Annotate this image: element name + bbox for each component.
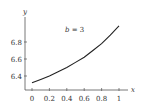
y-ticks: 6.4 6.6 6.8: [11, 39, 27, 81]
x-tick-label: 0.2: [44, 95, 55, 103]
y-tick-label: 6.6: [11, 56, 23, 64]
chart: y x 6.4 6.6 6.8 0 0.2 0.4 0.6 0.8 1 b = …: [0, 0, 142, 108]
y-axis-label: y: [22, 8, 28, 16]
x-tick-label: 1: [117, 95, 121, 103]
x-tick-label: 0.8: [96, 95, 107, 103]
x-tick-label: 0.4: [61, 95, 73, 103]
x-tick-label: 0: [30, 95, 34, 103]
y-tick-label: 6.4: [11, 73, 23, 81]
x-tick-label: 0.6: [79, 95, 91, 103]
y-tick-label: 6.8: [11, 39, 22, 47]
x-axis-label: x: [131, 86, 135, 94]
annotation: b = 3: [65, 26, 84, 34]
data-line: [32, 26, 119, 83]
